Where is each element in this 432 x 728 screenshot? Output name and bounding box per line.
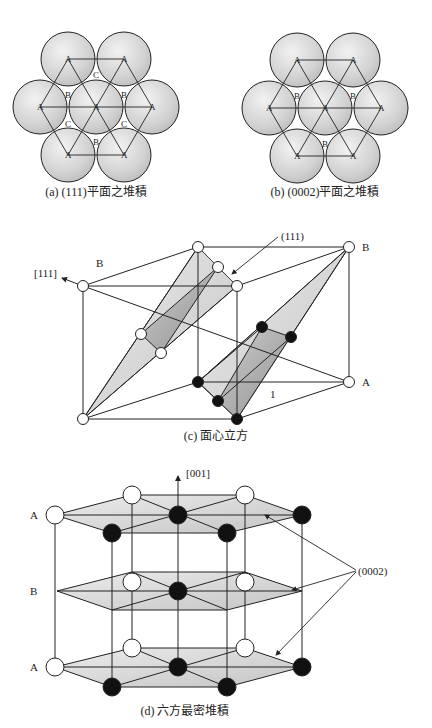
svg-text:B: B <box>93 137 99 147</box>
plane-111-pointer <box>232 237 278 274</box>
svg-text:A: A <box>37 102 44 112</box>
svg-text:B: B <box>322 139 328 149</box>
svg-text:A: A <box>65 54 72 64</box>
svg-text:A: A <box>294 55 301 65</box>
panel-a-111-stacking: A A A A A A A B B B C C C (a) (111)平面之堆積 <box>13 32 179 199</box>
svg-text:B: B <box>65 90 71 100</box>
caption-d: (d) 六方最密堆積 <box>141 703 230 718</box>
svg-text:C: C <box>93 70 99 80</box>
layer-label-b-left: B <box>96 257 103 269</box>
layer-label-a: A <box>362 376 370 388</box>
direction-label-001: [001] <box>186 467 210 479</box>
svg-text:A: A <box>149 102 156 112</box>
atoms <box>78 242 355 425</box>
panel-d-hcp: [001] (0002) A B A (d) 六方最密堆積 <box>30 467 388 718</box>
svg-text:B: B <box>294 91 300 101</box>
svg-text:B: B <box>121 90 127 100</box>
svg-text:B: B <box>350 91 356 101</box>
svg-text:A: A <box>322 103 329 113</box>
layer-label-b-right: B <box>362 241 369 253</box>
plane-label-0002: (0002) <box>358 565 388 578</box>
layer-label-top: A <box>30 509 38 521</box>
svg-text:C: C <box>121 119 127 129</box>
crystal-stacking-figure: A A A A A A A B B B C C C (a) (111)平面之堆積 <box>0 0 432 728</box>
svg-text:A: A <box>350 151 357 161</box>
svg-text:A: A <box>93 102 100 112</box>
svg-text:A: A <box>350 55 357 65</box>
direction-label-111: [111] <box>34 267 57 279</box>
caption-b: (b) (0002)平面之堆積 <box>271 184 380 199</box>
svg-text:A: A <box>65 150 72 160</box>
svg-text:A: A <box>121 150 128 160</box>
panel-c-fcc: [111] B (111) B A 1 (c) 面心立方 <box>34 230 370 443</box>
svg-text:A: A <box>266 103 273 113</box>
svg-text:A: A <box>294 151 301 161</box>
caption-c: (c) 面心立方 <box>184 428 248 443</box>
svg-text:C: C <box>65 119 71 129</box>
edge-label: 1 <box>270 388 276 400</box>
plane-label-111: (111) <box>281 230 304 243</box>
layer-label-middle: B <box>30 585 37 597</box>
panel-b-0002-stacking: A A A A A A A B B B (b) (0002)平面之堆積 <box>242 33 408 199</box>
svg-text:A: A <box>378 103 385 113</box>
svg-text:A: A <box>121 54 128 64</box>
layer-label-bottom: A <box>30 661 38 673</box>
caption-a: (a) (111)平面之堆積 <box>45 184 146 199</box>
